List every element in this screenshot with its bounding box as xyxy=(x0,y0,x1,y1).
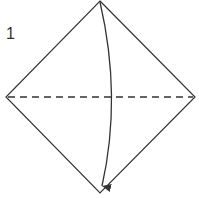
fold-arrow-icon xyxy=(100,2,112,186)
fold-diagram xyxy=(0,0,199,198)
